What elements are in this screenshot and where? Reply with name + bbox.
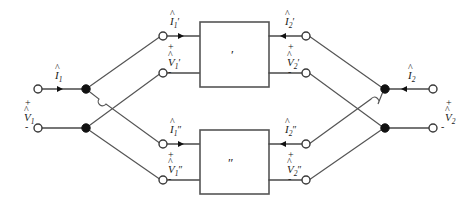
node-output-top-junction (381, 85, 389, 93)
arrow-input-current (57, 86, 63, 92)
label-subscript: 1 (59, 75, 63, 84)
arrow-top-out-current (280, 33, 286, 39)
hat-accent: ^ (445, 105, 455, 115)
label-output-voltage: ^ V2 (445, 112, 455, 126)
arrow-output-current (401, 86, 407, 92)
terminal-bot-in-minus[interactable] (159, 176, 167, 184)
label-bot-out-current: ^ I2″ (285, 124, 297, 138)
sign-top-out-minus: - (288, 67, 291, 77)
label-input-current: ^ I1 (55, 70, 62, 84)
terminal-bot-out-minus[interactable] (302, 176, 310, 184)
sign-top-in-minus: - (168, 67, 171, 77)
label-bot-in-current: ^ I1″ (170, 124, 182, 138)
hat-accent: ^ (408, 63, 415, 73)
terminal-input-minus[interactable] (34, 124, 42, 132)
terminal-top-in-minus[interactable] (159, 69, 167, 77)
node-input-top-junction (82, 85, 90, 93)
sign-output-minus: - (441, 122, 444, 132)
network-box-double-prime-mark: ″ (228, 155, 234, 171)
node-output-bottom-junction (381, 124, 389, 132)
label-subscript: 2 (452, 117, 456, 126)
terminal-top-out-plus[interactable] (302, 32, 310, 40)
terminal-bot-out-plus[interactable] (302, 140, 310, 148)
label-subscript: 2 (412, 75, 416, 84)
label-top-out-current: ^ I2′ (285, 16, 295, 30)
hat-accent: ^ (55, 63, 62, 73)
arrow-bot-out-current (280, 141, 286, 147)
arrow-top-in-current (178, 33, 184, 39)
terminal-input-plus[interactable] (34, 85, 42, 93)
terminal-output-plus[interactable] (429, 85, 437, 93)
hat-accent: ^ (170, 9, 180, 19)
network-box-double-prime (200, 130, 269, 194)
network-box-prime-mark: ′ (231, 47, 235, 63)
terminal-top-out-minus[interactable] (302, 69, 310, 77)
circuit-canvas (0, 0, 470, 204)
arrow-bot-in-current (178, 141, 184, 147)
sign-bot-out-minus: - (288, 174, 291, 184)
hat-accent: ^ (168, 157, 183, 167)
hat-accent: ^ (170, 117, 182, 127)
hat-accent: ^ (24, 105, 34, 115)
terminal-top-in-plus[interactable] (159, 32, 167, 40)
label-subscript: 1 (31, 117, 35, 126)
terminal-bot-in-plus[interactable] (159, 140, 167, 148)
label-output-current: ^ I2 (408, 70, 415, 84)
node-input-bottom-junction (82, 124, 90, 132)
hat-accent: ^ (287, 157, 302, 167)
hat-accent: ^ (285, 9, 295, 19)
hat-accent: ^ (285, 117, 297, 127)
hat-accent: ^ (168, 50, 181, 60)
circuit-diagram: ′ ″ ^ I1 + ^ V1 - ^ I1′ + ^ V1′ - ^ I2 (0, 0, 470, 204)
sign-input-minus: - (25, 122, 28, 132)
terminal-output-minus[interactable] (429, 124, 437, 132)
sign-bot-in-minus: - (168, 174, 171, 184)
label-top-in-current: ^ I1′ (170, 16, 180, 30)
hat-accent: ^ (287, 50, 300, 60)
